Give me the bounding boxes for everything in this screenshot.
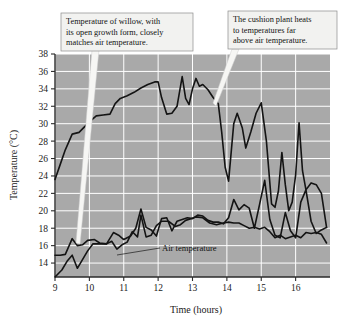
x-tick-label: 15: [257, 283, 267, 293]
cushion-callout-line-3: above air temperature.: [233, 36, 307, 45]
x-tick-label: 12: [153, 283, 163, 293]
x-tick-label: 13: [188, 283, 198, 293]
y-tick-label: 16: [39, 241, 49, 251]
willow-callout-line-1: Temperature of willow, with: [66, 17, 161, 26]
x-tick-label: 14: [222, 283, 232, 293]
x-tick-label: 16: [291, 283, 301, 293]
y-tick-label: 28: [39, 137, 49, 147]
temperature-line-chart: 38363432302826242220181614 9101112131415…: [0, 0, 346, 323]
y-tick-label: 22: [39, 189, 49, 199]
y-tick-label: 14: [39, 258, 49, 268]
y-tick-label: 20: [39, 206, 49, 216]
x-axis-title: Time (hours): [170, 304, 222, 316]
y-tick-label: 38: [39, 49, 49, 59]
y-tick-label: 30: [39, 119, 49, 129]
cushion-callout: The cushion plant heats to temperatures …: [228, 11, 337, 49]
y-tick-label: 34: [39, 84, 49, 94]
cushion-callout-line-1: The cushion plant heats: [233, 15, 312, 24]
cushion-callout-line-2: to temperatures far: [233, 26, 296, 35]
willow-callout-line-2: its open growth form, closely: [66, 28, 164, 37]
x-tick-label: 9: [53, 283, 58, 293]
chart-figure: 38363432302826242220181614 9101112131415…: [0, 0, 346, 323]
y-tick-label: 26: [39, 154, 49, 164]
y-tick-label: 18: [39, 224, 49, 234]
y-tick-label: 32: [39, 102, 49, 112]
willow-callout: Temperature of willow, with its open gro…: [61, 13, 193, 51]
y-tick-label: 36: [39, 67, 49, 77]
willow-callout-line-3: matches air temperature.: [66, 38, 148, 47]
x-tick-label: 11: [119, 283, 128, 293]
y-tick-label: 24: [39, 171, 49, 181]
x-tick-label: 10: [85, 283, 95, 293]
air-temperature-label: Air temperature: [162, 243, 217, 253]
y-axis-title: Temperature (°C): [8, 130, 20, 200]
